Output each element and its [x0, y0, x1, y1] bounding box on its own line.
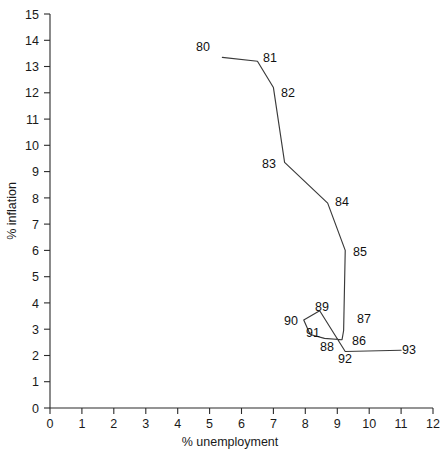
x-axis-tick-labels: 0 1 2 3 4 5 6 7 8 9 10 11 12	[47, 417, 440, 431]
x-tick-label-2: 2	[110, 417, 117, 431]
y-tick-label-11: 11	[26, 113, 39, 127]
x-tick-label-3: 3	[142, 417, 149, 431]
x-tick-label-5: 5	[206, 417, 213, 431]
series-line-phillips-curve	[222, 57, 401, 351]
y-tick-label-2: 2	[32, 349, 39, 363]
y-axis-ticks	[44, 14, 50, 408]
data-label-84: 84	[335, 195, 349, 209]
chart-canvas: 15 14 13 12 11 10 9 8 7 6 5 4 3 2 1 0	[0, 0, 441, 452]
x-tick-label-8: 8	[302, 417, 309, 431]
y-tick-label-7: 7	[32, 218, 39, 232]
data-label-93: 93	[402, 343, 416, 357]
y-tick-label-14: 14	[25, 34, 39, 48]
y-tick-label-9: 9	[32, 165, 39, 179]
y-tick-label-1: 1	[32, 375, 39, 389]
data-label-85: 85	[353, 245, 367, 259]
x-tick-label-9: 9	[334, 417, 341, 431]
x-axis-title: % unemployment	[182, 435, 279, 449]
y-tick-label-5: 5	[32, 270, 39, 284]
data-label-80: 80	[196, 40, 210, 54]
data-point-labels: 80 81 82 83 84 85 89 90 91 87 86 88 92 9…	[196, 40, 416, 366]
x-tick-label-1: 1	[78, 417, 85, 431]
data-label-88: 88	[320, 340, 334, 354]
x-tick-label-0: 0	[47, 417, 54, 431]
y-axis-title: % inflation	[5, 182, 19, 240]
x-tick-label-6: 6	[238, 417, 245, 431]
data-label-92: 92	[338, 352, 352, 366]
data-label-83: 83	[262, 157, 276, 171]
data-label-87: 87	[357, 312, 371, 326]
y-tick-label-12: 12	[25, 86, 39, 100]
y-tick-label-15: 15	[25, 8, 39, 22]
x-tick-label-7: 7	[270, 417, 277, 431]
x-tick-label-12: 12	[426, 417, 440, 431]
x-tick-label-10: 10	[362, 417, 376, 431]
data-label-82: 82	[281, 86, 295, 100]
y-tick-label-13: 13	[25, 60, 39, 74]
data-label-89: 89	[315, 300, 329, 314]
y-axis-tick-labels: 15 14 13 12 11 10 9 8 7 6 5 4 3 2 1 0	[25, 8, 39, 416]
y-tick-label-3: 3	[32, 323, 39, 337]
x-axis-ticks	[50, 408, 433, 414]
data-label-90: 90	[284, 314, 298, 328]
y-tick-label-0: 0	[32, 402, 39, 416]
data-label-86: 86	[352, 334, 366, 348]
data-label-81: 81	[263, 51, 277, 65]
y-tick-label-8: 8	[32, 192, 39, 206]
y-tick-label-6: 6	[32, 244, 39, 258]
y-tick-label-4: 4	[32, 297, 39, 311]
y-tick-label-10: 10	[25, 139, 39, 153]
data-label-91: 91	[306, 326, 320, 340]
x-tick-label-4: 4	[174, 417, 181, 431]
phillips-curve-chart: 15 14 13 12 11 10 9 8 7 6 5 4 3 2 1 0	[0, 0, 441, 452]
x-tick-label-11: 11	[395, 417, 408, 431]
